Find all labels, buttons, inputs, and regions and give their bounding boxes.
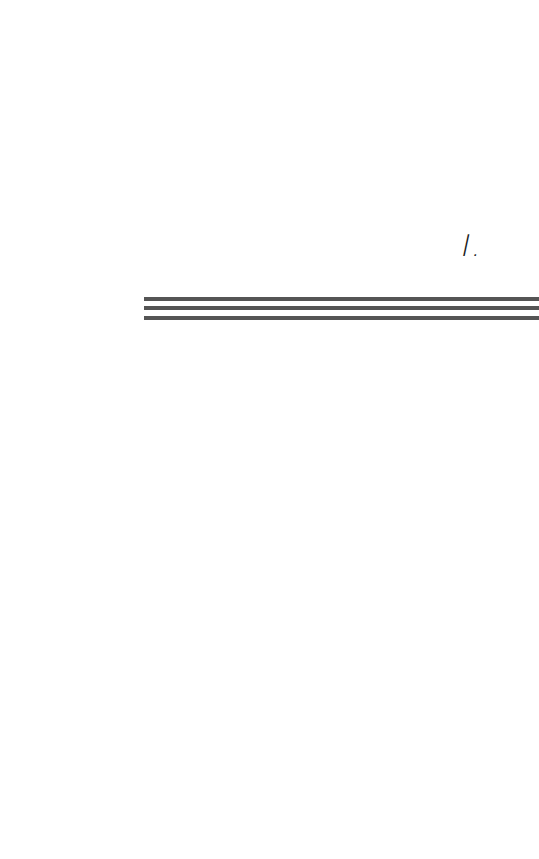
divider-rule-2 — [144, 306, 539, 310]
divider-rule-3 — [144, 316, 539, 320]
divider-rule-1 — [144, 297, 539, 301]
section-number: I. — [458, 228, 488, 263]
